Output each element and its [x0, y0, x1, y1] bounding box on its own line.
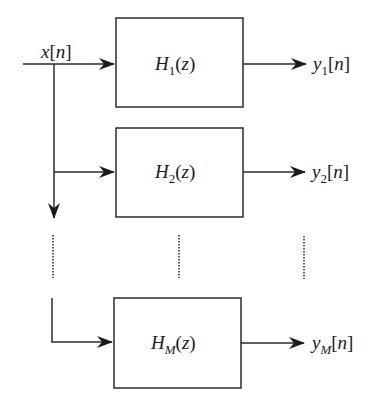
- output-label-1: y1[n]: [311, 53, 350, 78]
- filter-block-1: H1(z) y1[n]: [116, 18, 350, 107]
- filter-bank-diagram: x[n] H1(z) y1[n] H2(z) y2[n] HM(z) yM[n]: [0, 0, 380, 409]
- filter-block-2: H2(z) y2[n]: [116, 128, 349, 217]
- input-signal: x[n]: [23, 41, 114, 64]
- filter-block-m: HM(z) yM[n]: [114, 298, 353, 388]
- output-label-2: y2[n]: [310, 161, 349, 186]
- output-label-m: yM[n]: [310, 332, 353, 357]
- branch-arrow-m: [52, 298, 112, 342]
- input-label: x[n]: [40, 41, 72, 62]
- ellipsis-dots: [53, 235, 304, 279]
